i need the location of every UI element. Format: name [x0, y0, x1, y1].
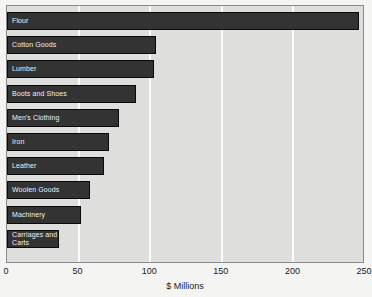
- bar-row[interactable]: Leather: [7, 157, 364, 175]
- bar[interactable]: [7, 12, 359, 30]
- bar-row[interactable]: Flour: [7, 12, 364, 30]
- x-axis-tick-labels: 050100150200250: [0, 266, 370, 280]
- bar[interactable]: [7, 36, 156, 54]
- bar-row[interactable]: Cotton Goods: [7, 36, 364, 54]
- x-tick-label: 150: [213, 266, 228, 276]
- bar[interactable]: [7, 206, 81, 224]
- bar[interactable]: [7, 109, 119, 127]
- bar-row[interactable]: Machinery: [7, 206, 364, 224]
- bar[interactable]: [7, 230, 59, 248]
- bar-series: FlourCotton GoodsLumberBoots and ShoesMe…: [7, 6, 363, 262]
- bar-row[interactable]: Iron: [7, 133, 364, 151]
- bar[interactable]: [7, 85, 136, 103]
- plot-area: FlourCotton GoodsLumberBoots and ShoesMe…: [6, 5, 364, 263]
- bar-row[interactable]: Boots and Shoes: [7, 85, 364, 103]
- x-tick-label: 50: [73, 266, 83, 276]
- bar-row[interactable]: Woolen Goods: [7, 181, 364, 199]
- x-tick-label: 200: [285, 266, 300, 276]
- bar-row[interactable]: Men's Clothing: [7, 109, 364, 127]
- bar-row[interactable]: Carriages and Carts: [7, 230, 364, 248]
- bar[interactable]: [7, 181, 90, 199]
- bar[interactable]: [7, 133, 109, 151]
- x-tick-label: 250: [356, 266, 371, 276]
- bar[interactable]: [7, 157, 104, 175]
- x-tick-label: 100: [142, 266, 157, 276]
- bar-row[interactable]: Lumber: [7, 60, 364, 78]
- bar[interactable]: [7, 60, 154, 78]
- x-tick-label: 0: [3, 266, 8, 276]
- x-axis-title: $ Millions: [0, 281, 370, 291]
